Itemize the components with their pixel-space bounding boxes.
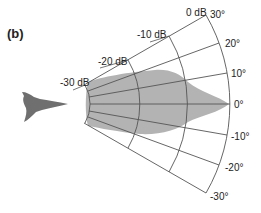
label-0deg: 0° bbox=[234, 99, 244, 110]
beam-pattern-figure: (b) -30 dB bbox=[0, 0, 261, 213]
label-20deg: 20° bbox=[225, 38, 240, 49]
label-neg10db: -10 dB bbox=[137, 29, 167, 40]
panel-label: (b) bbox=[7, 26, 24, 41]
label-neg20db: -20 dB bbox=[98, 56, 128, 67]
label-30deg: 30° bbox=[210, 9, 225, 20]
label-0db: 0 dB bbox=[186, 7, 207, 18]
label-neg10deg: -10° bbox=[231, 131, 249, 142]
label-neg20deg: -20° bbox=[225, 162, 243, 173]
angle-rays bbox=[84, 15, 230, 193]
polar-plot: -30 dB -20 dB -10 dB 0 dB 30° 20° 10° 0°… bbox=[0, 0, 261, 213]
label-neg30deg: -30° bbox=[210, 191, 228, 202]
bat-head-icon bbox=[22, 92, 68, 122]
label-10deg: 10° bbox=[231, 68, 246, 79]
label-neg30db: -30 dB bbox=[60, 77, 90, 88]
